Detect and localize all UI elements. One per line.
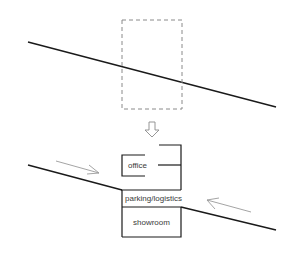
terrain-line-top: [28, 42, 276, 107]
showroom-label: showroom: [133, 218, 170, 227]
site-boundary-dashed: [122, 20, 182, 109]
flow-arrow-left-icon: [207, 198, 251, 212]
site-diagram: office parking/logistics showroom: [0, 0, 293, 253]
down-arrow-icon: [145, 122, 159, 137]
terrain-line-right: [181, 207, 276, 230]
parking-label: parking/logistics: [125, 194, 182, 203]
office-frame-right: [159, 145, 181, 190]
terrain-line-left: [28, 165, 122, 190]
flow-arrow-right-icon: [56, 161, 99, 174]
office-label: office: [128, 161, 148, 170]
